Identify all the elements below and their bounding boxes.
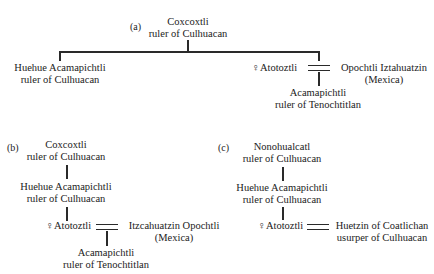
female-symbol-icon: ♀ [252, 62, 260, 73]
person-atotoztli: ♀Atotoztli [252, 62, 297, 74]
person-title: ruler of Culhuacan [138, 28, 238, 40]
person-acamapichtli: Acamapichtli ruler of Tenochtitlan [56, 247, 156, 271]
person-title: (Mexica) [336, 74, 432, 86]
marriage-icon [96, 224, 118, 230]
person-title: ruler of Tenochtitlan [56, 259, 156, 271]
person-nonohualcatl: Nonohualcatl ruler of Culhuacan [232, 141, 332, 165]
person-opochtli-iztahuatzin: Opochtli Iztahuatzin (Mexica) [336, 62, 432, 86]
person-title: ruler of Tenochtitlan [268, 99, 368, 111]
person-name: Acamapichtli [56, 247, 156, 259]
person-name: Atotoztli [54, 220, 91, 231]
person-acamapichtli: Acamapichtli ruler of Tenochtitlan [268, 87, 368, 111]
person-name: Opochtli Iztahuatzin [336, 62, 432, 74]
person-name: Coxcoxtli [16, 139, 116, 151]
person-coxcoxtli: Coxcoxtli ruler of Culhuacan [138, 16, 238, 40]
person-title: ruler of Culhuacan [4, 74, 116, 86]
person-huehue-acamapichtli: Huehue Acamapichtli ruler of Culhuacan [10, 181, 122, 205]
descent-line [59, 51, 61, 61]
person-title: ruler of Culhuacan [226, 194, 338, 206]
descent-line [106, 231, 108, 246]
person-title: usurper of Culhuacan [330, 232, 434, 244]
person-name: Huehue Acamapichtli [10, 181, 122, 193]
descent-line [66, 165, 68, 179]
marriage-icon [307, 224, 329, 230]
person-title: ruler of Culhuacan [232, 153, 332, 165]
person-huehue-acamapichtli: Huehue Acamapichtli ruler of Culhuacan [4, 62, 116, 86]
diagram-c-label: (c) [218, 142, 229, 154]
person-name: Nonohualcatl [232, 141, 332, 153]
person-atotoztli: ♀Atotoztli [258, 220, 303, 232]
descent-line [66, 207, 68, 221]
person-itzcahuatzin-opochtli: Itzcahuatzin Opochtli (Mexica) [122, 220, 226, 244]
person-name: Huehue Acamapichtli [4, 62, 116, 74]
descent-line [318, 51, 320, 61]
female-symbol-icon: ♀ [258, 220, 266, 231]
person-coxcoxtli: Coxcoxtli ruler of Culhuacan [16, 139, 116, 163]
person-title: ruler of Culhuacan [10, 193, 122, 205]
marriage-icon [308, 65, 330, 71]
person-huetzin-of-coatlichan: Huetzin of Coatlichan usurper of Culhuac… [330, 220, 434, 244]
person-title: (Mexica) [122, 232, 226, 244]
person-name: Atotoztli [266, 220, 303, 231]
person-name: Coxcoxtli [138, 16, 238, 28]
female-symbol-icon: ♀ [46, 220, 54, 231]
person-atotoztli: ♀Atotoztli [46, 220, 91, 232]
person-name: Acamapichtli [268, 87, 368, 99]
person-name: Huetzin of Coatlichan [330, 220, 434, 232]
person-name: Itzcahuatzin Opochtli [122, 220, 226, 232]
person-huehue-acamapichtli: Huehue Acamapichtli ruler of Culhuacan [226, 182, 338, 206]
descent-line [318, 72, 320, 86]
sibling-line [59, 51, 319, 53]
person-name: Atotoztli [260, 62, 297, 73]
descent-line [282, 207, 284, 220]
descent-line [282, 167, 284, 181]
person-name: Huehue Acamapichtli [226, 182, 338, 194]
person-title: ruler of Culhuacan [16, 151, 116, 163]
